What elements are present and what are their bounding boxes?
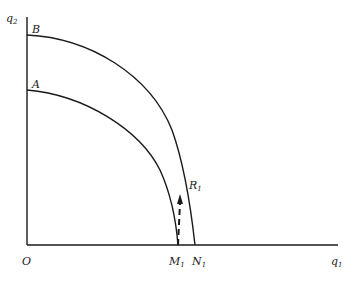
arrowhead-icon bbox=[177, 194, 183, 204]
label-r1: R1 bbox=[188, 179, 202, 193]
label-n1: N1 bbox=[191, 255, 206, 269]
curve-b bbox=[27, 35, 195, 245]
x-axis-label: q1 bbox=[331, 255, 343, 269]
curve-a bbox=[27, 90, 178, 245]
y-axis-label: q2 bbox=[6, 12, 18, 26]
ppf-diagram: q2 B A R1 O M1 N1 q1 bbox=[0, 0, 353, 284]
label-b: B bbox=[31, 23, 40, 36]
dashed-arrow-shaft bbox=[178, 203, 180, 245]
diagram-canvas: q2 B A R1 O M1 N1 q1 bbox=[0, 0, 353, 284]
label-a: A bbox=[31, 78, 40, 91]
origin-label: O bbox=[22, 255, 31, 268]
label-m1: M1 bbox=[168, 255, 185, 269]
